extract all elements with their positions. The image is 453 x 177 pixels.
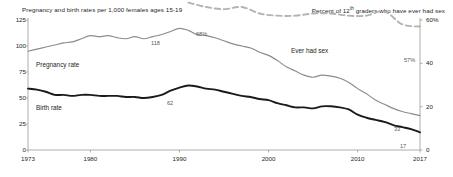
series-line-ever-had-sex (188, 3, 420, 27)
data-label-birth-end: 17 (400, 143, 406, 149)
ever-had-sex-label: Ever had sex (291, 47, 328, 54)
data-label-sex-end: 57% (404, 57, 415, 63)
data-label-pregnancy-peak: 118 (151, 40, 160, 46)
plot-lines (26, 3, 423, 153)
data-label-birth-peak: 62 (167, 100, 173, 106)
pregnancy-rate-label: Pregnancy rate (36, 61, 79, 68)
birth-rate-label: Birth rate (36, 104, 62, 111)
data-label-pregnancy-end: 33 (394, 126, 400, 132)
teen-pregnancy-chart: Pregnancy and birth rates per 1,000 fema… (0, 0, 453, 177)
data-label-sex-start: 68% (196, 31, 207, 37)
series-line-birth-rate (28, 85, 420, 132)
series-line-pregnancy-rate (28, 28, 420, 115)
plot-svg (0, 0, 453, 177)
